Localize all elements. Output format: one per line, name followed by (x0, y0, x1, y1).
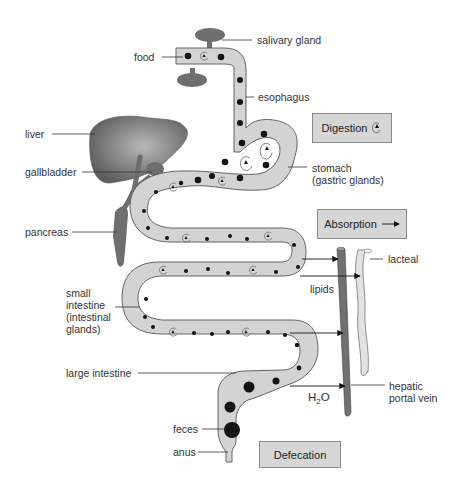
label-feces: feces (173, 423, 198, 435)
label-h2o: H2O (308, 391, 330, 408)
label-stomach: stomach (gastric glands) (312, 162, 384, 186)
lacteal-vessel (356, 250, 369, 376)
label-small-intestine: small intestine (intestinal glands) (66, 287, 111, 335)
digestion-label: Digestion (322, 122, 368, 134)
enzyme-cycle-icon (372, 122, 382, 134)
absorption-box: Absorption (317, 209, 407, 239)
label-stomach-line2: (gastric glands) (312, 174, 384, 186)
absorption-label: Absorption (324, 218, 377, 230)
digestive-system-diagram (0, 0, 461, 492)
salivary-gland-upper (195, 28, 225, 50)
digestion-box: Digestion (312, 113, 392, 143)
defecation-box: Defecation (259, 441, 341, 468)
enzyme-cycle-icons (159, 52, 272, 336)
pancreas-shape (113, 207, 128, 267)
label-esophagus: esophagus (258, 91, 309, 103)
gi-tract-tube (122, 48, 318, 462)
food-particles (142, 53, 301, 438)
label-pancreas: pancreas (25, 226, 68, 238)
salivary-gland-lower (177, 68, 207, 87)
label-liver: liver (25, 128, 44, 140)
label-lacteal: lacteal (388, 253, 418, 265)
label-lipids: lipids (310, 283, 334, 295)
label-food: food (134, 51, 154, 63)
arrow-right-icon (382, 220, 400, 228)
label-gallbladder: gallbladder (25, 166, 76, 178)
defecation-label: Defecation (274, 449, 327, 461)
label-stomach-line1: stomach (312, 162, 384, 174)
label-hepatic-portal-vein: hepatic portal vein (389, 380, 437, 404)
label-large-intestine: large intestine (66, 367, 131, 379)
label-anus: anus (173, 446, 196, 458)
label-salivary-gland: salivary gland (257, 34, 321, 46)
